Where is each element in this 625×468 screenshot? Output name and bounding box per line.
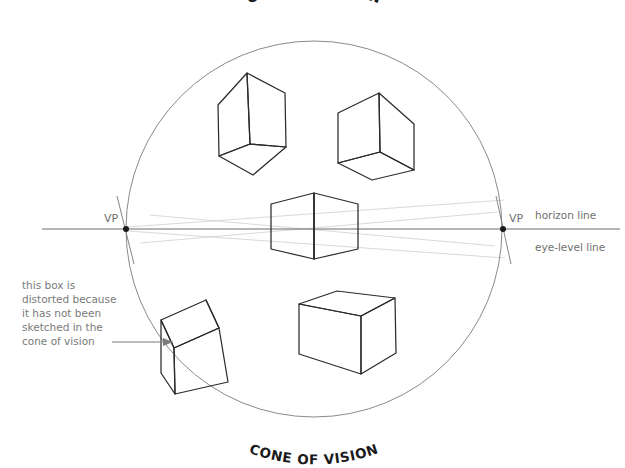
annotation-arrow-icon [112,338,173,346]
vp-left-label: VP [104,212,119,225]
horizon-line-label: horizon line [535,209,596,221]
annotation-line-4: sketched in the [22,321,103,333]
annotation-line-2: distorted because [22,293,116,305]
annotation-line-3: it has not been [22,307,101,319]
diagram-canvas: CONE OF VISION CONE OF VISION VP VP hori… [0,0,625,468]
vp-right-point [500,226,506,232]
cone-of-vision-title-top: CONE OF VISION [244,0,383,6]
bottom-right-cube [299,291,396,374]
center-cube [271,193,358,259]
distorted-box [161,300,228,394]
cone-of-vision-title-bottom: CONE OF VISION [248,440,381,467]
vp-left-point [123,226,129,232]
top-left-cube [218,73,286,175]
top-right-cube [338,93,414,180]
annotation-line-5: cone of vision [22,335,95,347]
eye-level-line-label: eye-level line [535,241,605,253]
annotation-line-1: this box is [22,279,75,291]
distortion-annotation: this box is distorted because it has not… [22,279,116,347]
vp-right-label: VP [509,212,524,225]
